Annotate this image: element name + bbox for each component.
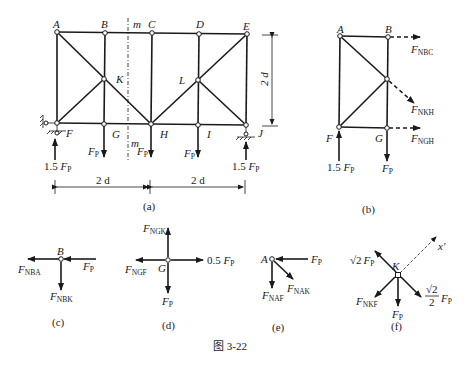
panel-a-truss: A B m C D E K L F G m H I J FP FP FP 1.5…	[40, 18, 278, 213]
c-force-FP: FP	[82, 260, 94, 274]
node-H	[149, 122, 154, 127]
figure-3-22: A B m C D E K L F G m H I J FP FP FP 1.5…	[0, 0, 474, 369]
f-label-K: K	[391, 260, 400, 272]
label-F: F	[65, 127, 73, 139]
d-force-FP: FP	[161, 295, 173, 309]
figure-caption: 图 3-22	[213, 340, 247, 352]
node-C	[150, 31, 155, 36]
svg-text:2: 2	[429, 296, 435, 308]
node-I	[196, 123, 201, 128]
label-m-top: m	[133, 18, 141, 30]
label-J: J	[258, 127, 264, 139]
b-label-B: B	[385, 23, 392, 35]
b-load-label: FP	[381, 162, 393, 176]
svg-text:√2: √2	[426, 283, 438, 295]
node-F	[55, 121, 60, 126]
f-axis-x-prime	[400, 237, 436, 273]
label-L: L	[178, 74, 185, 86]
node-B	[103, 31, 108, 36]
height-label: 2 d	[258, 72, 270, 86]
b-label-F: F	[325, 132, 333, 144]
caption-e: (e)	[272, 321, 285, 334]
label-B: B	[101, 18, 108, 30]
d-force-NGF: FNGF	[124, 263, 147, 277]
load-label-G: FP	[87, 145, 99, 159]
panel-f-node-K: K x' √2FP FNKF FP √2 2 FP (f)	[350, 237, 452, 333]
label-I: I	[206, 128, 212, 140]
b-reaction-label: 1.5 FP	[327, 161, 354, 175]
node-A	[55, 30, 60, 35]
e-force-NAF: FNAF	[261, 289, 284, 303]
b-label-A: A	[336, 23, 344, 35]
node-D	[197, 32, 202, 37]
c-force-NBK: FNBK	[49, 290, 73, 304]
span-label-left: 2 d	[96, 174, 110, 186]
label-G: G	[112, 128, 120, 140]
caption-f: (f)	[391, 320, 402, 333]
span-label-right: 2 d	[191, 174, 205, 186]
caption-a: (a)	[143, 200, 156, 213]
panel-c-node-B: B FNBA FP FNBK (c)	[17, 245, 96, 329]
reaction-label-left: 1.5 FP	[44, 160, 71, 174]
f-axis-label: x'	[437, 240, 446, 252]
d-label-G: G	[158, 262, 166, 274]
node-L	[196, 78, 201, 83]
e-force-NAK: FNAK	[286, 282, 311, 296]
c-force-NBA: FNBA	[17, 263, 41, 277]
load-label-I: FP	[183, 147, 195, 161]
b-force-NKH: FNKH	[410, 103, 435, 117]
node-E	[245, 32, 250, 37]
b-label-G: G	[375, 132, 383, 144]
node-K	[102, 77, 107, 82]
svg-text:FP: FP	[440, 292, 452, 306]
label-C: C	[148, 18, 156, 30]
caption-d: (d)	[162, 319, 175, 332]
e-label-A: A	[260, 253, 268, 265]
panel-b-free-body: A B F G FNBC FNKH FNGH 1.5 FP FP (b)	[325, 23, 435, 216]
b-force-NGH: FNGH	[410, 132, 435, 146]
label-A: A	[52, 18, 60, 30]
caption-c: (c)	[52, 316, 65, 329]
node-G	[102, 122, 107, 127]
d-force-half-FP: 0.5 FP	[207, 254, 234, 268]
b-force-NBC: FNBC	[410, 43, 433, 57]
d-force-NGK: FNGK	[142, 222, 167, 236]
panel-e-node-A: A FP FNAF FNAK (e)	[260, 253, 322, 334]
label-H: H	[159, 128, 169, 140]
f-force-sqrt2-FP: √2FP	[350, 254, 374, 268]
label-D: D	[195, 18, 204, 30]
reaction-label-right: 1.5 FP	[232, 160, 259, 174]
label-E: E	[242, 20, 250, 32]
right-support-icon	[236, 127, 255, 140]
panel-d-node-G: FNGK FNGF G 0.5 FP FP (d)	[124, 222, 234, 332]
node-J	[244, 123, 249, 128]
f-force-half-sqrt2-FP: √2 2 FP	[425, 283, 452, 308]
c-label-B: B	[57, 245, 64, 257]
caption-b: (b)	[362, 203, 375, 216]
load-label-H: FP	[136, 145, 148, 159]
f-force-NKF: FNKF	[355, 295, 378, 309]
label-K: K	[115, 73, 124, 85]
e-force-FP: FP	[310, 253, 322, 267]
